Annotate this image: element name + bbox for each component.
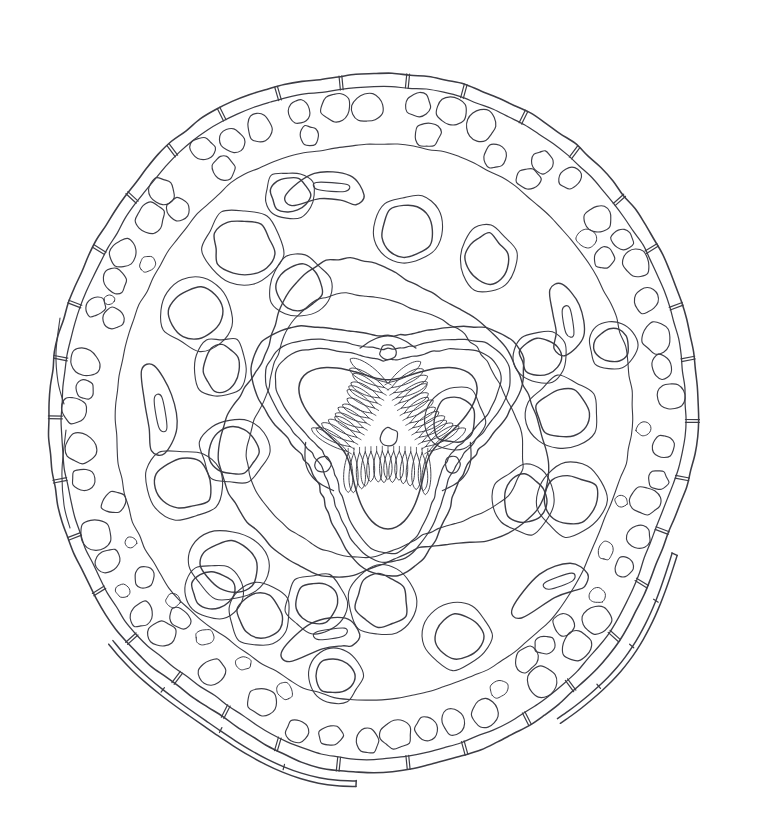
nematode-cross-section-drawing [0, 0, 762, 839]
canvas-background [0, 0, 762, 839]
figure-root [0, 0, 762, 839]
